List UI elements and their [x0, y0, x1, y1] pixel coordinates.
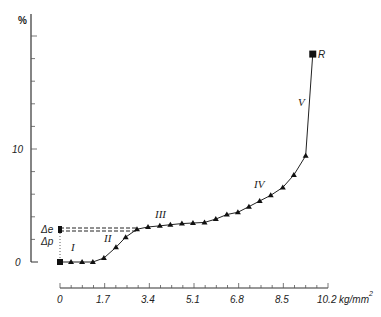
region-label-V: V — [298, 96, 306, 108]
triangle-marker — [257, 198, 263, 203]
x-unit-label: kg/mm — [339, 294, 369, 305]
x-tick-label-3: 5.1 — [186, 294, 200, 305]
x-tick-label-1: 1.7 — [96, 294, 110, 305]
chart-canvas: % 10 0 0 1.7 3.4 5.1 6.8 8.5 10.2 kg/mm … — [0, 0, 381, 317]
triangle-marker — [235, 209, 241, 214]
y-unit-label: % — [18, 15, 27, 26]
triangle-marker — [246, 204, 252, 209]
x-tick-label-4: 6.8 — [230, 294, 244, 305]
x-tick-label-0: 0 — [57, 294, 63, 305]
label-delta-p: Δp — [40, 236, 54, 247]
y-tick-label-0: 0 — [15, 257, 21, 268]
triangle-marker — [123, 234, 129, 239]
y-axis: % 10 0 — [12, 14, 38, 268]
data-series — [57, 51, 316, 265]
x-tick-label-6: 10.2 — [317, 294, 337, 305]
label-delta-e: Δe — [40, 224, 54, 235]
x-axis: 0 1.7 3.4 5.1 6.8 8.5 10.2 kg/mm 2 — [57, 283, 373, 305]
origin-marker — [57, 259, 63, 265]
region-label-III: III — [154, 208, 167, 220]
delta-e-marker — [58, 226, 62, 233]
region-label-IV: IV — [253, 178, 266, 190]
triangle-marker — [291, 172, 297, 177]
x-unit-superscript: 2 — [368, 290, 373, 297]
x-tick-label-5: 8.5 — [275, 294, 289, 305]
rupture-point-marker — [309, 51, 316, 58]
label-R: R — [318, 49, 325, 60]
region-label-I: I — [70, 241, 76, 253]
region-label-II: II — [103, 232, 113, 244]
y-tick-label-10: 10 — [12, 144, 24, 155]
reference-lines — [58, 226, 137, 262]
x-tick-label-2: 3.4 — [141, 294, 155, 305]
triangle-marker — [268, 192, 274, 197]
triangle-marker — [303, 153, 309, 158]
